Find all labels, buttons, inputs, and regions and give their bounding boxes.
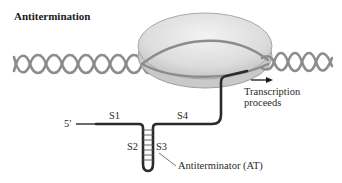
s1-label: S1	[109, 110, 120, 121]
s3-label: S3	[156, 141, 167, 152]
antitermination-diagram: Antitermination Transcription proceeds	[0, 0, 342, 183]
hairpin-base-pairs	[143, 130, 153, 160]
diagram-title: Antitermination	[14, 10, 90, 22]
dna-helix-right	[262, 53, 332, 71]
transcription-label-line1: Transcription	[244, 86, 301, 97]
s4-label: S4	[177, 110, 189, 121]
antiterminator-leader-line	[159, 153, 176, 166]
transcription-label-line2: proceeds	[244, 97, 281, 108]
s2-label: S2	[127, 141, 138, 152]
five-prime-label: 5′	[64, 118, 72, 129]
dna-helix-left	[14, 55, 156, 73]
antiterminator-label: Antiterminator (AT)	[178, 160, 263, 172]
